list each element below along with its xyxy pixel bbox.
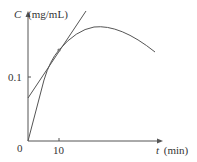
concentration-curve <box>28 27 155 141</box>
y-axis-unit: (mg/mL) <box>28 8 68 20</box>
tangency-point <box>57 48 60 51</box>
x-axis-arrow-icon <box>157 139 163 144</box>
chart-canvas <box>0 0 197 162</box>
x-axis-variable: t <box>156 144 159 156</box>
tangent-line <box>28 11 86 98</box>
x-tick-label-10: 10 <box>53 145 64 156</box>
y-axis-label: C (mg/mL) <box>14 9 68 20</box>
origin-label: 0 <box>17 143 23 154</box>
x-axis-label: t (min) <box>156 145 188 156</box>
y-tick-label-0.1: 0.1 <box>8 72 22 83</box>
x-axis-unit: (min) <box>164 144 188 156</box>
y-axis-variable: C <box>14 8 21 20</box>
